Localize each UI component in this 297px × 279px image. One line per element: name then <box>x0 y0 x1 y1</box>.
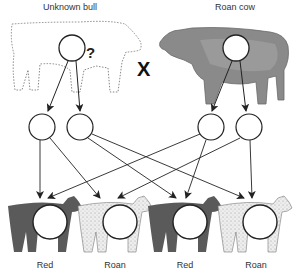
gamete-circles <box>29 114 262 140</box>
roan-cow-image <box>160 28 289 105</box>
unknown-genotype-marker: ? <box>86 44 95 61</box>
cow-allele-circle <box>223 35 249 61</box>
offspring-label-1: Red <box>25 260 65 270</box>
bull-label: Unknown bull <box>20 2 120 12</box>
cow-label: Roan cow <box>185 2 285 12</box>
offspring-label-3: Red <box>165 260 205 270</box>
offspring-label-2: Roan <box>95 260 135 270</box>
offspring-label-4: Roan <box>236 260 276 270</box>
punnett-cross-diagram <box>0 0 297 279</box>
cross-symbol: X <box>137 58 150 81</box>
bull-allele-circle <box>59 35 85 61</box>
